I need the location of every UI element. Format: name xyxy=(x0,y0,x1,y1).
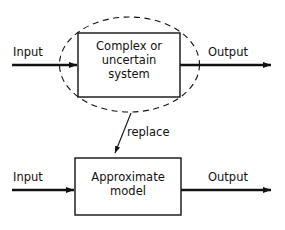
lower-output-label: Output xyxy=(208,171,248,184)
replace-connector-label: replace xyxy=(127,126,170,139)
complex-system-block-label: Complex or uncertain system xyxy=(78,39,180,81)
upper-input-label: Input xyxy=(13,46,43,59)
approximate-model-block-label: Approximate model xyxy=(75,170,181,198)
block-diagram: Complex or uncertain system Approximate … xyxy=(0,0,285,230)
lower-input-label: Input xyxy=(13,171,43,184)
upper-output-label: Output xyxy=(208,46,248,59)
